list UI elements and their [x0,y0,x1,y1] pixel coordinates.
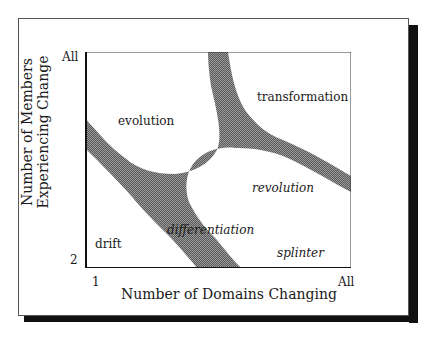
region-differentiation: differentiation [167,223,254,237]
x-axis-label: Number of Domains Changing [121,286,337,302]
frame-shadow-bottom [24,316,418,322]
plot-area: evolution transformation revolution diff… [85,52,351,268]
x-tick-max: All [338,275,354,289]
y-tick-max: All [62,50,78,64]
x-tick-min: 1 [92,275,100,289]
region-splinter: splinter [277,246,324,260]
y-axis-label-line1: Number of Members [19,32,35,232]
region-evolution: evolution [118,114,174,128]
frame-shadow-right [409,25,418,323]
y-axis-label: Number of Members Experiencing Change [19,32,51,232]
region-transformation: transformation [257,90,348,104]
region-revolution: revolution [252,181,314,195]
y-tick-min: 2 [70,253,78,267]
region-drift: drift [95,237,122,251]
y-axis-label-line2: Experiencing Change [35,32,51,232]
